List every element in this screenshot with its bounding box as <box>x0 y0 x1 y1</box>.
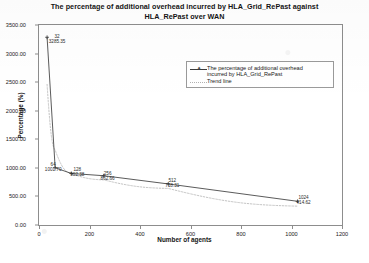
chart-title-line-2: HLA_RePast over WAN <box>0 12 369 22</box>
data-point-label: 512718.31 <box>165 178 179 188</box>
chart-figure: The percentage of additional overhead in… <box>0 0 369 263</box>
x-tick-label: 200 <box>85 231 94 237</box>
x-tick-label: 0 <box>37 231 40 237</box>
legend-entry-trend: Trend line <box>190 78 330 86</box>
x-tick-label: 600 <box>186 231 195 237</box>
x-tick-label: 800 <box>236 231 245 237</box>
x-tick-mark <box>140 226 141 229</box>
x-tick-mark <box>292 226 293 229</box>
y-tick-label: 2500.00 <box>0 79 26 85</box>
data-point-label: 1024414.62 <box>297 195 311 205</box>
y-tick-label: 0.00 <box>0 222 26 228</box>
x-tick-label: 400 <box>135 231 144 237</box>
data-point-label: 256862.66 <box>101 171 115 181</box>
plot-inner: 323285.35641001.70128902.38256862.665127… <box>39 25 342 225</box>
data-point-label: 641001.70 <box>45 162 62 172</box>
chart-legend: ✦ The percentage of additional overhead … <box>186 61 334 88</box>
y-tick-label: 1500.00 <box>0 136 26 142</box>
legend-swatch-line-icon: ✦ <box>190 66 207 73</box>
x-tick-label: 1200 <box>336 231 348 237</box>
x-tick-mark <box>90 226 91 229</box>
data-point-label-y: 718.31 <box>165 183 179 188</box>
y-tick-label: 3000.00 <box>0 51 26 57</box>
data-point-label-y: 1001.70 <box>45 167 62 172</box>
x-tick-mark <box>39 226 40 229</box>
y-tick-label: 3500.00 <box>0 22 26 28</box>
data-point-label: 323285.35 <box>49 34 66 44</box>
data-point-label-y: 862.66 <box>101 176 115 181</box>
legend-entry-overhead: ✦ The percentage of additional overhead … <box>190 65 330 78</box>
plot-area: 323285.35641001.70128902.38256862.665127… <box>38 24 343 226</box>
x-tick-mark <box>241 226 242 229</box>
legend-label-trend: Trend line <box>207 78 232 84</box>
data-point-label-y: 3285.35 <box>49 39 66 44</box>
x-tick-label: 1000 <box>285 231 297 237</box>
legend-swatch-dotted-icon <box>190 79 207 86</box>
x-tick-mark <box>191 226 192 229</box>
y-tick-label: 2000.00 <box>0 108 26 114</box>
chart-title-line-1: The percentage of additional overhead in… <box>0 2 369 12</box>
data-point-label: 128902.38 <box>70 167 84 177</box>
x-tick-mark <box>342 226 343 229</box>
data-point-label-y: 902.38 <box>70 172 84 177</box>
y-tick-label: 1000.00 <box>0 165 26 171</box>
data-point-label-y: 414.62 <box>297 200 311 205</box>
chart-title: The percentage of additional overhead in… <box>0 2 369 21</box>
y-tick-label: 500.00 <box>0 193 26 199</box>
legend-label-overhead: The percentage of additional overhead in… <box>207 65 303 78</box>
x-axis-title: Number of agents <box>0 236 369 243</box>
